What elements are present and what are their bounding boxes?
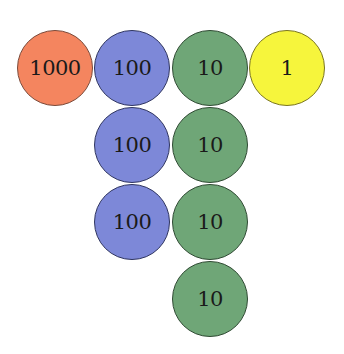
chip-label: 10 xyxy=(197,287,223,311)
hundreds-chip: 100 xyxy=(94,184,170,260)
chip-label: 100 xyxy=(113,56,152,80)
hundreds-chip: 100 xyxy=(94,30,170,106)
chip-label: 10 xyxy=(197,56,223,80)
tens-chip: 10 xyxy=(172,261,248,337)
thousands-chip: 1000 xyxy=(17,30,93,106)
ones-chip: 1 xyxy=(249,30,325,106)
hundreds-chip: 100 xyxy=(94,107,170,183)
chip-label: 10 xyxy=(197,133,223,157)
tens-chip: 10 xyxy=(172,184,248,260)
chip-label: 1000 xyxy=(29,56,80,80)
chip-label: 10 xyxy=(197,210,223,234)
chip-label: 100 xyxy=(113,133,152,157)
tens-chip: 10 xyxy=(172,30,248,106)
chip-label: 100 xyxy=(113,210,152,234)
tens-chip: 10 xyxy=(172,107,248,183)
chip-label: 1 xyxy=(281,56,294,80)
